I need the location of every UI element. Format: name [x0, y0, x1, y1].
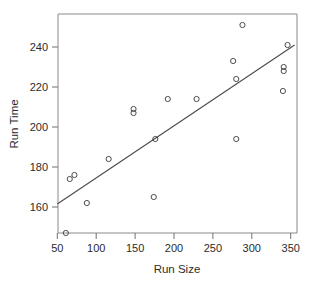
data-point	[231, 58, 236, 63]
data-point	[106, 156, 111, 161]
data-point	[84, 200, 89, 205]
chart-canvas: 50 100 150 200 250 300 350 160 180 200 2…	[0, 0, 314, 281]
y-tick-label: 180	[30, 161, 48, 173]
x-tick-label: 250	[204, 242, 222, 254]
data-point	[151, 194, 156, 199]
data-points-layer	[63, 22, 290, 235]
data-point	[285, 42, 290, 47]
data-point	[72, 172, 77, 177]
y-axis-ticks	[52, 47, 58, 207]
data-point	[280, 88, 285, 93]
data-point	[234, 76, 239, 81]
data-point	[194, 96, 199, 101]
x-tick-label: 350	[282, 242, 300, 254]
data-point	[165, 96, 170, 101]
x-axis-tick-labels: 50 100 150 200 250 300 350	[51, 242, 300, 254]
x-tick-label: 150	[126, 242, 144, 254]
y-tick-label: 220	[30, 81, 48, 93]
y-tick-label: 160	[30, 201, 48, 213]
x-axis-title: Run Size	[154, 263, 201, 275]
x-tick-label: 200	[165, 242, 183, 254]
y-tick-label: 240	[30, 41, 48, 53]
regression-fit-line	[57, 45, 294, 204]
x-axis-ticks	[57, 233, 290, 239]
x-tick-label: 300	[243, 242, 261, 254]
scatter-plot-figure: 50 100 150 200 250 300 350 160 180 200 2…	[0, 0, 314, 281]
data-point	[67, 176, 72, 181]
x-tick-label: 50	[51, 242, 63, 254]
data-point	[234, 136, 239, 141]
y-tick-label: 200	[30, 121, 48, 133]
data-point	[240, 22, 245, 27]
x-tick-label: 100	[87, 242, 105, 254]
y-axis-title: Run Time	[8, 99, 20, 148]
y-axis-tick-labels: 160 180 200 220 240	[30, 41, 48, 213]
